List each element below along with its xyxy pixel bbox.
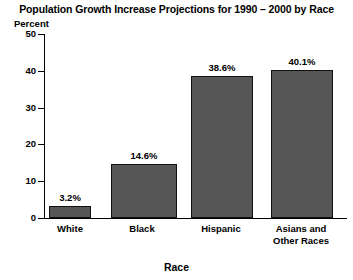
y-tick-label-wrap: 10 — [0, 176, 36, 186]
x-axis-line — [44, 218, 347, 219]
x-axis-category-line: Asians and — [251, 223, 351, 235]
y-tick-mark — [38, 144, 44, 145]
bar — [191, 76, 253, 218]
bar — [111, 164, 177, 218]
y-tick-mark — [38, 181, 44, 182]
x-axis-title: Race — [0, 261, 353, 273]
y-tick-label: 40 — [2, 66, 36, 76]
bars-layer: 3.2%14.6%38.6%40.1% — [45, 34, 347, 218]
bar — [271, 70, 333, 218]
x-axis-category-line: Other Races — [251, 235, 351, 247]
y-tick-mark — [38, 34, 44, 35]
y-tick-label: 0 — [2, 213, 36, 223]
bar-value-label: 38.6% — [191, 62, 253, 73]
y-tick-mark — [38, 108, 44, 109]
y-tick-label-wrap: 50 — [0, 29, 36, 39]
y-tick-label: 10 — [2, 176, 36, 186]
y-tick-label: 50 — [2, 29, 36, 39]
bar-value-label: 40.1% — [271, 56, 333, 67]
bar-value-label: 3.2% — [49, 192, 91, 203]
y-tick-label-wrap: 30 — [0, 103, 36, 113]
y-tick-label: 30 — [2, 103, 36, 113]
bar-chart: Population Growth Increase Projections f… — [0, 0, 353, 280]
bar — [49, 206, 91, 218]
y-tick-label-wrap: 20 — [0, 139, 36, 149]
y-tick-mark — [38, 218, 44, 219]
bar-value-label: 14.6% — [111, 150, 177, 161]
y-tick-label-wrap: 0 — [0, 213, 36, 223]
y-tick-label: 20 — [2, 139, 36, 149]
y-tick-label-wrap: 40 — [0, 66, 36, 76]
y-tick-mark — [38, 71, 44, 72]
chart-title: Population Growth Increase Projections f… — [0, 3, 353, 15]
x-axis-category-label: Asians andOther Races — [251, 223, 351, 247]
